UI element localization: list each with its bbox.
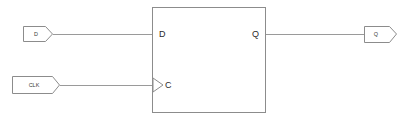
output-port-q[interactable]: Q: [365, 27, 397, 43]
output-port-q-shape: [365, 27, 397, 43]
dff-pin-label-c: C: [165, 80, 172, 90]
input-port-d-label: D: [34, 31, 38, 37]
input-port-d[interactable]: D: [24, 27, 53, 42]
input-port-d-shape: [24, 27, 53, 42]
dff-block-body[interactable]: [153, 8, 266, 113]
input-port-clk-label: CLK: [29, 82, 40, 88]
schematic-canvas: D C Q D CLK Q: [0, 0, 404, 122]
schematic-drawing: D C Q D CLK Q: [0, 0, 404, 122]
input-port-clk[interactable]: CLK: [13, 77, 60, 94]
output-port-q-label: Q: [374, 31, 379, 37]
dff-pin-label-d: D: [159, 29, 166, 39]
dff-pin-label-q: Q: [252, 29, 259, 39]
